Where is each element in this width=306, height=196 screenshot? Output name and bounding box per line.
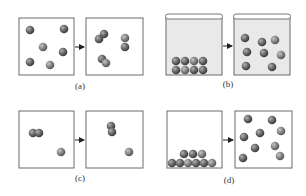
particle — [199, 57, 208, 66]
particle — [258, 38, 267, 47]
particle — [172, 57, 181, 66]
before-state — [166, 14, 223, 75]
panel-label: (b) — [223, 79, 234, 89]
particle — [268, 63, 277, 72]
container-box — [86, 18, 143, 75]
particle — [268, 116, 277, 125]
particle — [242, 62, 251, 71]
particle — [176, 159, 185, 168]
after-state — [86, 111, 143, 168]
particle — [181, 57, 190, 66]
particle-diagram: (a)(b)(c)(d) — [0, 0, 306, 196]
particle — [46, 61, 55, 70]
particle — [180, 150, 189, 159]
particle — [192, 159, 201, 168]
particle — [172, 66, 181, 75]
particle — [208, 159, 217, 168]
particle — [276, 152, 285, 161]
particle — [198, 150, 207, 159]
before-state — [19, 18, 74, 75]
panel-b: (b) — [166, 14, 291, 89]
particle — [271, 142, 280, 151]
particle — [199, 66, 208, 75]
container-lid — [234, 14, 291, 19]
particle — [239, 154, 248, 163]
container-box — [86, 111, 143, 168]
particle — [39, 43, 48, 52]
particle — [190, 66, 199, 75]
particle — [190, 57, 199, 66]
particle — [251, 144, 260, 153]
panel-label: (d) — [224, 175, 235, 185]
particle — [277, 127, 286, 136]
panel-label: (a) — [75, 81, 85, 91]
particle — [26, 26, 35, 35]
particle — [125, 148, 134, 157]
particle — [184, 159, 193, 168]
before-state — [19, 111, 74, 168]
after-state — [234, 14, 291, 75]
particle — [100, 30, 109, 39]
particle — [60, 25, 69, 34]
particle — [244, 115, 253, 124]
before-state — [167, 111, 222, 168]
particle — [240, 133, 249, 142]
container-lid — [166, 14, 223, 19]
particle — [189, 150, 198, 159]
panel-c: (c) — [19, 111, 143, 183]
particle — [241, 34, 250, 43]
particle — [59, 48, 68, 57]
particle — [57, 148, 66, 157]
panel-a: (a) — [19, 18, 143, 91]
particle — [260, 49, 269, 58]
after-state — [235, 111, 292, 168]
particle — [243, 48, 252, 57]
particle — [121, 43, 130, 52]
particle — [168, 159, 177, 168]
particle — [108, 128, 117, 137]
panel-label: (c) — [75, 173, 85, 183]
particle — [121, 34, 130, 43]
particle — [200, 159, 209, 168]
after-state — [86, 18, 143, 75]
particle — [256, 129, 265, 138]
particle — [26, 58, 35, 67]
particle — [35, 129, 44, 138]
panel-d: (d) — [167, 111, 292, 185]
particle — [271, 36, 280, 45]
container-box — [19, 111, 74, 168]
particle — [181, 66, 190, 75]
particle — [102, 59, 111, 68]
particle — [277, 51, 286, 60]
